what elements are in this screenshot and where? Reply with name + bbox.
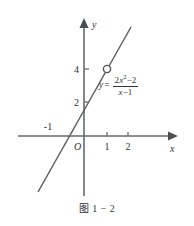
x-tick-label-2: 2 [126, 141, 131, 152]
y-axis-arrowhead [80, 18, 89, 28]
figure-container: y x O -1 1 2 4 2 y = 2x2−2 x−1 图 1 − 2 [0, 0, 194, 226]
x-tick-label-neg1: -1 [44, 121, 52, 132]
formula-equals: = [104, 81, 109, 91]
figure-caption: 图 1 − 2 [0, 200, 194, 215]
x-tick-label-1: 1 [105, 141, 110, 152]
numerator-constant: −2 [127, 75, 137, 85]
x-axis-label: x [169, 143, 175, 154]
formula-lhs: y [99, 81, 103, 91]
function-formula-annotation: y = 2x2−2 x−1 [99, 74, 138, 97]
coordinate-plane-figure: y x O -1 1 2 4 2 [0, 0, 194, 226]
formula-fraction: 2x2−2 x−1 [113, 74, 139, 97]
formula-numerator: 2x2−2 [113, 74, 139, 86]
open-circle-discontinuity-marker [103, 65, 110, 72]
y-tick-label-2: 2 [74, 97, 79, 108]
formula-denominator: x−1 [117, 87, 135, 97]
origin-label: O [74, 141, 81, 152]
denominator-constant: −1 [123, 87, 133, 97]
y-axis-label: y [91, 19, 97, 30]
y-tick-label-4: 4 [74, 64, 79, 75]
x-axis-arrowhead [168, 132, 178, 141]
